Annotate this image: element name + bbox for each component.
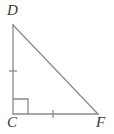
vertex-label-d: D (7, 3, 18, 18)
right-angle-marker (13, 99, 28, 114)
side-df-hypotenuse-line (13, 25, 98, 114)
vertex-label-f: F (96, 115, 105, 130)
geometry-figure: D C F (0, 0, 114, 134)
vertex-label-c: C (7, 115, 17, 130)
